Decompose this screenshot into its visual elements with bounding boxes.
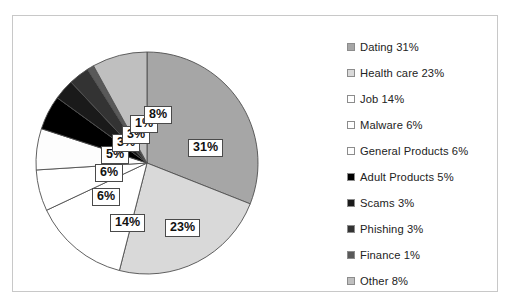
legend-label-job: Job 14%	[360, 86, 404, 112]
legend-swatch-dating-icon	[347, 43, 355, 51]
legend-item-job[interactable]: Job 14%	[347, 86, 497, 112]
legend-swatch-finance-icon	[347, 251, 355, 259]
legend-item-malware[interactable]: Malware 6%	[347, 112, 497, 138]
chart-legend: Dating 31%Health care 23%Job 14%Malware …	[347, 34, 497, 294]
legend-label-malware: Malware 6%	[360, 112, 423, 138]
legend-swatch-adult-products-icon	[347, 173, 355, 181]
legend-swatch-general-products-icon	[347, 147, 355, 155]
legend-label-scams: Scams 3%	[360, 190, 414, 216]
legend-swatch-phishing-icon	[347, 225, 355, 233]
pie-data-label-other: 8%	[144, 106, 172, 124]
legend-swatch-health-care-icon	[347, 69, 355, 77]
pie-slice-group	[36, 52, 258, 274]
legend-swatch-scams-icon	[347, 199, 355, 207]
legend-swatch-job-icon	[347, 95, 355, 103]
legend-item-adult-products[interactable]: Adult Products 5%	[347, 164, 497, 190]
pie-data-label-dating: 31%	[188, 139, 223, 157]
pie-chart-svg	[13, 16, 343, 293]
legend-item-health-care[interactable]: Health care 23%	[347, 60, 497, 86]
legend-item-dating[interactable]: Dating 31%	[347, 34, 497, 60]
legend-label-health-care: Health care 23%	[360, 60, 444, 86]
legend-label-other: Other 8%	[360, 268, 408, 294]
pie-plot-area: 31%23%14%6%6%5%3%3%1%8%	[13, 16, 343, 293]
legend-label-general-products: General Products 6%	[360, 138, 468, 164]
pie-data-label-health-care: 23%	[165, 219, 200, 237]
pie-data-label-malware: 6%	[95, 164, 123, 182]
legend-item-scams[interactable]: Scams 3%	[347, 190, 497, 216]
legend-swatch-malware-icon	[347, 121, 355, 129]
legend-label-dating: Dating 31%	[360, 34, 419, 60]
legend-item-other[interactable]: Other 8%	[347, 268, 497, 294]
legend-item-finance[interactable]: Finance 1%	[347, 242, 497, 268]
legend-item-general-products[interactable]: General Products 6%	[347, 138, 497, 164]
pie-data-label-general-products: 6%	[92, 188, 120, 206]
legend-label-finance: Finance 1%	[360, 242, 420, 268]
legend-label-adult-products: Adult Products 5%	[360, 164, 454, 190]
chart-frame: 31%23%14%6%6%5%3%3%1%8% Dating 31%Health…	[12, 15, 498, 292]
legend-item-phishing[interactable]: Phishing 3%	[347, 216, 497, 242]
legend-label-phishing: Phishing 3%	[360, 216, 423, 242]
legend-swatch-other-icon	[347, 277, 355, 285]
pie-data-label-job: 14%	[110, 214, 145, 232]
